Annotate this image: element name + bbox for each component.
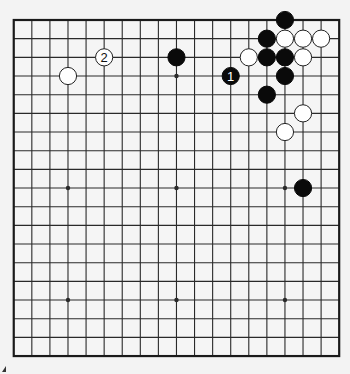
black-stone bbox=[276, 49, 293, 66]
star-point-icon bbox=[174, 186, 178, 190]
black-stone-icon bbox=[258, 49, 275, 66]
star-point-icon bbox=[283, 186, 287, 190]
black-stone-icon bbox=[258, 86, 275, 103]
white-stone-move-2: 2 bbox=[96, 49, 113, 66]
black-stone-icon bbox=[258, 30, 275, 47]
black-stone-icon bbox=[276, 11, 293, 28]
black-stone bbox=[276, 67, 293, 84]
star-point-icon bbox=[66, 186, 70, 190]
white-stone bbox=[276, 123, 293, 140]
white-stone-icon bbox=[313, 30, 330, 47]
white-stone-icon bbox=[294, 105, 311, 122]
black-stone-icon bbox=[294, 179, 311, 196]
white-stone-icon bbox=[294, 49, 311, 66]
black-stone bbox=[258, 30, 275, 47]
white-stone bbox=[240, 49, 257, 66]
black-stone-icon bbox=[276, 49, 293, 66]
star-point-icon bbox=[66, 298, 70, 302]
star-point-icon bbox=[283, 298, 287, 302]
black-stone bbox=[258, 86, 275, 103]
white-stone bbox=[276, 30, 293, 47]
black-stone bbox=[258, 49, 275, 66]
star-point-icon bbox=[174, 74, 178, 78]
move-number-label: 2 bbox=[101, 50, 108, 65]
white-stone-icon bbox=[276, 30, 293, 47]
white-stone bbox=[294, 105, 311, 122]
black-stone bbox=[294, 179, 311, 196]
move-number-label: 1 bbox=[227, 69, 234, 84]
white-stone bbox=[313, 30, 330, 47]
white-stone-icon bbox=[240, 49, 257, 66]
go-board-diagram: 12 bbox=[0, 0, 350, 374]
white-stone bbox=[59, 67, 76, 84]
white-stone-icon bbox=[276, 123, 293, 140]
black-stone-icon bbox=[276, 67, 293, 84]
black-stone-icon bbox=[168, 49, 185, 66]
white-stone bbox=[294, 30, 311, 47]
white-stone-icon bbox=[294, 30, 311, 47]
corner-mark-icon bbox=[2, 366, 6, 372]
white-stone-icon bbox=[59, 67, 76, 84]
black-stone bbox=[168, 49, 185, 66]
white-stone bbox=[294, 49, 311, 66]
black-stone bbox=[276, 11, 293, 28]
go-board: 12 bbox=[0, 0, 350, 374]
star-point-icon bbox=[174, 298, 178, 302]
black-stone-move-1: 1 bbox=[222, 67, 239, 84]
